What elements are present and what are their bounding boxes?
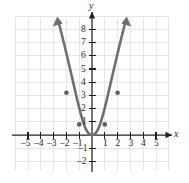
y-axis-arrow [89,12,95,19]
point-marker [115,91,120,96]
y-tick-label--2: –2 [77,157,87,167]
y-tick-label--1: –1 [78,144,88,154]
y-tick-label-6: 6 [81,51,86,61]
y-tick-label-7: 7 [81,38,86,48]
y-tick-label-1: 1 [82,117,87,127]
x-tick-label--2: –2 [60,139,70,149]
y-axis-label: y [89,1,93,11]
x-tick-label-4: 4 [141,139,146,149]
point-marker [77,122,82,127]
graph-canvas [0,0,189,183]
y-tick-label-5: 5 [81,65,86,75]
point-marker [64,91,69,96]
x-tick-label--3: –3 [47,139,57,149]
point-marker [103,122,108,127]
x-axis-label: x [174,129,178,139]
y-tick-label-4: 4 [81,78,86,88]
y-tick-label-2: 2 [81,104,86,114]
curve-arrow-right [121,17,131,27]
y-tick-label-3: 3 [81,91,86,101]
curve-arrow-left [53,17,63,27]
x-tick-label--5: –5 [21,139,31,149]
x-tick-label-2: 2 [116,139,121,149]
parabola-graph-figure: x y –5 –4 –3 –2 –1 1 2 3 4 5 8 7 6 5 4 3… [0,0,189,183]
y-tick-label-8: 8 [81,25,86,35]
x-tick-label-3: 3 [129,139,134,149]
x-tick-label-1: 1 [103,139,108,149]
x-tick-label-5: 5 [154,139,159,149]
x-tick-label--4: –4 [34,139,44,149]
